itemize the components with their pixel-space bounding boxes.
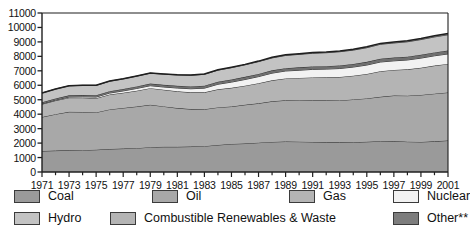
legend-swatch-icon	[110, 212, 136, 225]
legend-swatch-icon	[14, 190, 40, 203]
legend-item-combustible-renewables-waste[interactable]: Combustible Renewables & Waste	[110, 212, 336, 225]
y-tick-label: 10000	[0, 22, 36, 33]
legend-swatch-icon	[14, 212, 40, 225]
legend-label: Nuclear	[427, 190, 470, 203]
chart-legend: CoalOilGasNuclearHydroCombustible Renewa…	[0, 188, 468, 248]
y-tick-label: 11000	[0, 8, 36, 19]
plot-svg	[0, 0, 468, 185]
legend-item-coal[interactable]: Coal	[14, 190, 74, 203]
legend-label: Hydro	[48, 212, 81, 225]
y-tick-label: 4000	[0, 109, 36, 120]
x-axis-ticks	[42, 172, 448, 177]
legend-item-nuclear[interactable]: Nuclear	[393, 190, 470, 203]
y-tick-label: 8000	[0, 51, 36, 62]
y-tick-label: 5000	[0, 95, 36, 106]
y-tick-label: 9000	[0, 37, 36, 48]
y-tick-label: 3000	[0, 124, 36, 135]
y-tick-label: 1000	[0, 153, 36, 164]
legend-item-hydro[interactable]: Hydro	[14, 212, 81, 225]
y-tick-label: 6000	[0, 80, 36, 91]
legend-label: Gas	[323, 190, 346, 203]
legend-label: Oil	[186, 190, 201, 203]
legend-label: Combustible Renewables & Waste	[144, 212, 336, 225]
legend-swatch-icon	[289, 190, 315, 203]
legend-item-other[interactable]: Other**	[393, 212, 468, 225]
y-tick-label: 2000	[0, 138, 36, 149]
legend-label: Coal	[48, 190, 74, 203]
y-tick-label: 0	[0, 167, 36, 178]
legend-item-oil[interactable]: Oil	[152, 190, 201, 203]
legend-item-gas[interactable]: Gas	[289, 190, 346, 203]
legend-swatch-icon	[393, 212, 419, 225]
stacked-area-chart: 1100010000900080007000600050004000300020…	[0, 0, 468, 185]
legend-swatch-icon	[393, 190, 419, 203]
y-tick-label: 7000	[0, 66, 36, 77]
legend-label: Other**	[427, 212, 468, 225]
legend-swatch-icon	[152, 190, 178, 203]
